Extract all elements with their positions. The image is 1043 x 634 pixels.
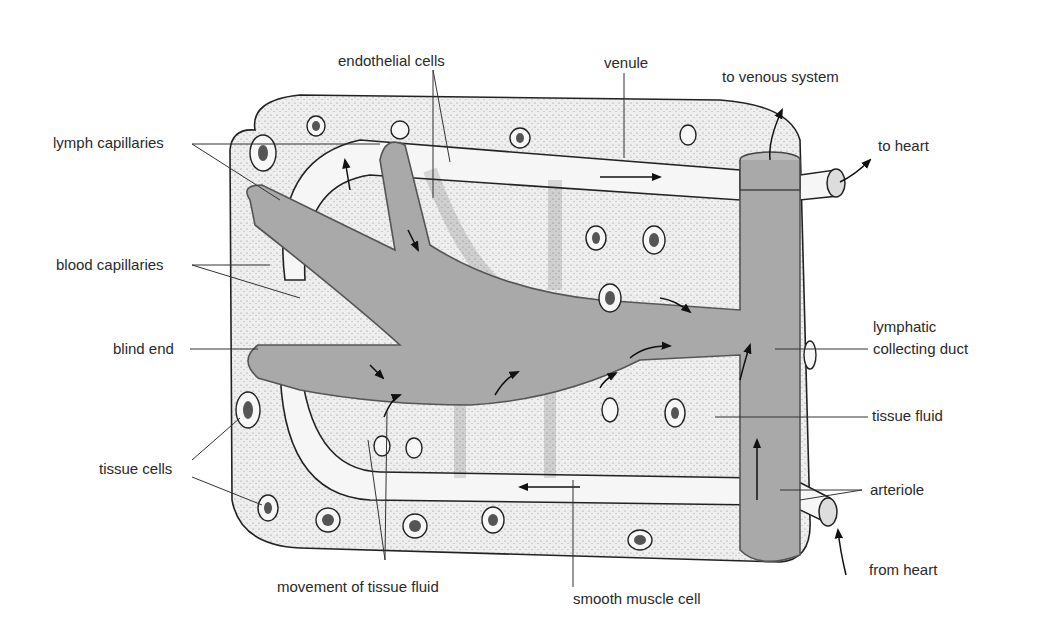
diagram-canvas	[0, 0, 1043, 634]
label-tissue-fluid: tissue fluid	[872, 407, 943, 425]
arteriole-opening	[819, 498, 837, 526]
label-venule: venule	[604, 54, 648, 72]
label-endothelial-cells: endothelial cells	[338, 52, 445, 70]
label-tissue-cells: tissue cells	[99, 460, 172, 478]
lymphatic-diagram: endothelial cells venule to venous syste…	[0, 0, 1043, 634]
label-blood-capillaries: blood capillaries	[56, 256, 164, 274]
label-smooth-muscle-cell: smooth muscle cell	[573, 590, 701, 608]
label-lymphatic: lymphatic	[873, 318, 936, 336]
label-to-venous-system: to venous system	[722, 68, 839, 86]
label-collecting-duct: collecting duct	[873, 340, 968, 358]
label-arteriole: arteriole	[870, 481, 924, 499]
label-movement-of-tissue-fluid: movement of tissue fluid	[277, 578, 439, 596]
label-lymph-capillaries: lymph capillaries	[53, 134, 164, 152]
duct-top	[740, 160, 800, 190]
label-blind-end: blind end	[113, 340, 174, 358]
label-to-heart: to heart	[878, 137, 929, 155]
label-from-heart: from heart	[869, 561, 937, 579]
venule-opening	[827, 169, 845, 197]
